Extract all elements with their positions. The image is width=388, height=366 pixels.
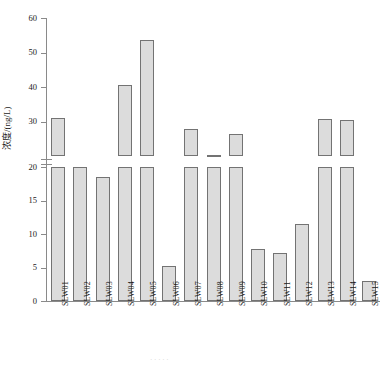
x-axis-category-label: SLW08 — [217, 281, 225, 306]
x-axis-category-label: SLW02 — [84, 281, 92, 306]
x-axis-category-label: SLW09 — [239, 281, 247, 306]
x-axis-category-label: SLW03 — [106, 281, 114, 306]
y-axis-tick-mark — [41, 87, 46, 88]
y-axis-tick-mark — [41, 18, 46, 19]
x-axis-category-label: SLW10 — [261, 281, 269, 306]
y-axis-tick-label: 20 — [29, 163, 38, 172]
y-axis-tick-mark — [41, 201, 46, 202]
y-axis-tick-mark — [41, 122, 46, 123]
x-axis-category-label: SLW13 — [328, 281, 336, 306]
bar-upper-segment — [51, 118, 65, 156]
x-axis-category-label: SLW05 — [150, 281, 158, 306]
x-axis-category-label: SLW11 — [284, 282, 292, 307]
bar-upper-segment — [207, 155, 221, 157]
bar-upper-segment — [184, 129, 198, 156]
y-axis-tick-mark — [41, 268, 46, 269]
bar-upper-segment — [118, 85, 132, 156]
x-axis-category-label: SLW07 — [195, 281, 203, 306]
x-axis-category-label: SLW14 — [350, 281, 358, 306]
y-axis-tick-label: 40 — [29, 83, 38, 92]
y-axis-tick-label: 5 — [33, 263, 37, 272]
bar-upper-segment — [140, 40, 154, 156]
y-axis-tick-label: 60 — [29, 14, 38, 23]
y-axis-title: 浓度/(ng/L) — [2, 107, 12, 151]
y-axis-tick-label: 30 — [29, 117, 38, 126]
x-axis-category-label: SLW06 — [173, 281, 181, 306]
x-axis-category-label: SLW12 — [306, 281, 314, 306]
bar-upper-segment — [340, 120, 354, 156]
y-axis-tick-label: 15 — [29, 196, 38, 205]
y-axis-tick-label: 50 — [29, 48, 38, 57]
y-axis-tick-mark — [41, 53, 46, 54]
axis-break-mark-upper — [41, 159, 52, 160]
x-axis-category-label: SLW04 — [128, 281, 136, 306]
y-axis-tick-mark — [41, 301, 46, 302]
x-axis-category-label: SLW15 — [372, 281, 380, 306]
bar-upper-segment — [318, 119, 332, 156]
y-axis-tick-mark — [41, 167, 46, 168]
figure-caption: · · · · · — [150, 356, 360, 365]
axis-break-mark-lower — [41, 164, 52, 165]
bar-upper-segment — [229, 134, 243, 156]
bar-chart-figure: 浓度/(ng/L) 0510152030405060 SLW01SLW02SLW… — [0, 0, 388, 366]
x-axis-category-label: SLW01 — [62, 281, 70, 306]
y-axis-tick-label: 0 — [33, 297, 37, 306]
y-axis-tick-label: 10 — [29, 230, 38, 239]
y-axis-tick-mark — [41, 234, 46, 235]
y-axis-line — [46, 18, 47, 302]
